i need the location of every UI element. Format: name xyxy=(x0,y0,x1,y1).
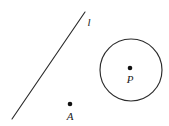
line-l-label: l xyxy=(87,16,90,28)
point-a-dot xyxy=(68,102,73,107)
point-p-label: P xyxy=(126,73,134,85)
point-p-dot xyxy=(128,66,133,71)
geometry-canvas: l A P xyxy=(0,0,169,126)
line-l-segment xyxy=(12,12,85,119)
geometry-diagram: l A P xyxy=(0,0,169,126)
point-a-label: A xyxy=(66,110,74,122)
